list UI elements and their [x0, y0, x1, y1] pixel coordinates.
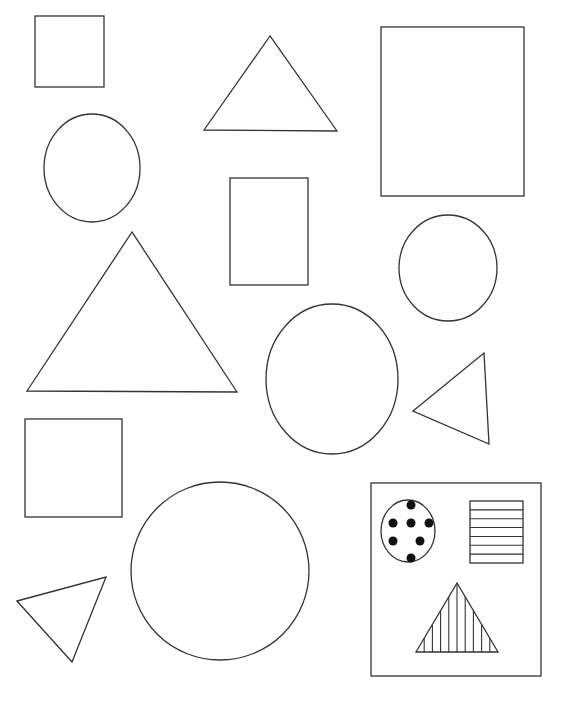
ellipse-shape	[399, 215, 497, 321]
dot-icon	[416, 537, 425, 546]
shapes-worksheet	[0, 0, 564, 701]
legend-box	[371, 483, 541, 676]
square-shape	[25, 419, 122, 517]
dotted-ellipse-shape	[381, 500, 435, 562]
dot-icon	[425, 519, 434, 528]
square-shape	[35, 16, 104, 87]
triangle-shape	[17, 577, 106, 662]
dot-icon	[389, 537, 398, 546]
ellipse-shape	[266, 304, 398, 454]
rectangle-shape	[381, 27, 524, 196]
dot-icon	[407, 519, 416, 528]
triangle-shape	[204, 36, 337, 131]
triangle-shape	[413, 353, 489, 444]
dot-icon	[389, 519, 398, 528]
dot-icon	[407, 501, 416, 510]
shape-layer	[17, 16, 524, 662]
circle-shape	[131, 482, 309, 660]
rectangle-shape	[230, 178, 308, 285]
legend-frame	[371, 483, 541, 676]
triangle-shape	[27, 232, 237, 392]
dot-icon	[407, 554, 416, 563]
ellipse-shape	[44, 114, 140, 222]
